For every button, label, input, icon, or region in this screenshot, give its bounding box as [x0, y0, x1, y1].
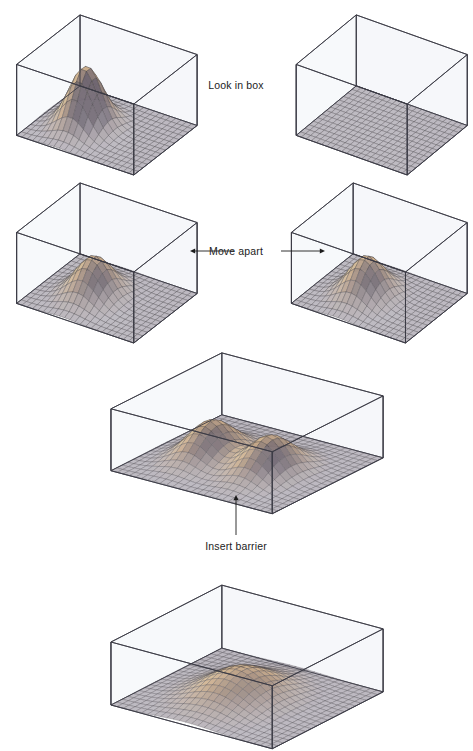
surface-box-box-with-single-broad-peak	[98, 572, 386, 747]
caption-insert-barrier: Insert barrier	[205, 541, 267, 552]
diagram-canvas: Look in boxMove apartInsert barrier	[0, 0, 473, 751]
arrow-up-icon	[229, 495, 243, 535]
caption-move-apart: Move apart	[209, 246, 263, 257]
surface-box-box-right-after-separation	[283, 178, 470, 343]
surface-box-empty-box	[288, 10, 470, 175]
surface-box-box-with-particle	[8, 10, 200, 175]
surface-box-box-with-two-peaks	[98, 340, 386, 512]
surface-box-box-left-after-separation	[8, 178, 200, 343]
arrow-right-icon	[281, 244, 325, 258]
caption-look-in-box: Look in box	[208, 80, 263, 91]
